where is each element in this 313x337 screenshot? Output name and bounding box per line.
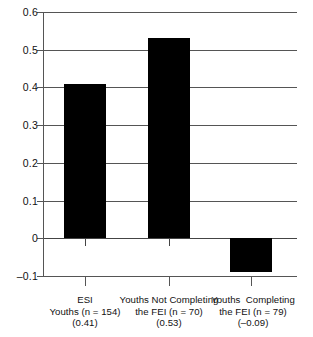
plot-area <box>43 12 297 276</box>
x-tick-esi-youths <box>85 277 86 286</box>
y-axis-spine <box>43 12 44 277</box>
x-axis-label-youths-completing-fei: Youths Completing the FEI (n = 79) (–0.0… <box>197 294 309 329</box>
x-tick-youths-completing-fei <box>251 277 252 286</box>
gridline-0.6 <box>43 12 297 13</box>
y-axis-label-0.1: 0.1 <box>0 196 38 207</box>
zero-tick-esi-youths <box>85 238 86 246</box>
x-axis-label-line-1: Youths Completing <box>197 294 309 306</box>
bar-youths-completing-fei <box>230 238 272 272</box>
y-axis-label-0.2: 0.2 <box>0 158 38 169</box>
bar-youths-not-completing-fei <box>148 38 190 238</box>
bar-chart: 0.6 0.5 0.4 0.3 0.2 0.1 0 –0.1 ESI Youth… <box>0 0 313 337</box>
x-axis-label-line-2: the FEI (n = 79) <box>197 306 309 318</box>
y-axis-label-0: 0 <box>0 233 38 244</box>
y-axis-label-0.4: 0.4 <box>0 82 38 93</box>
y-axis-label-0.5: 0.5 <box>0 45 38 56</box>
x-tick-youths-not-completing-fei <box>169 277 170 286</box>
y-axis-label-0.3: 0.3 <box>0 120 38 131</box>
bar-esi-youths <box>64 84 106 239</box>
gridline-minus-0.1 <box>43 276 297 277</box>
y-axis-label-0.6: 0.6 <box>0 7 38 18</box>
zero-tick-youths-not-completing-fei <box>169 238 170 246</box>
y-axis-label-minus-0.1: –0.1 <box>0 271 38 282</box>
x-axis-label-line-3: (–0.09) <box>197 317 309 329</box>
